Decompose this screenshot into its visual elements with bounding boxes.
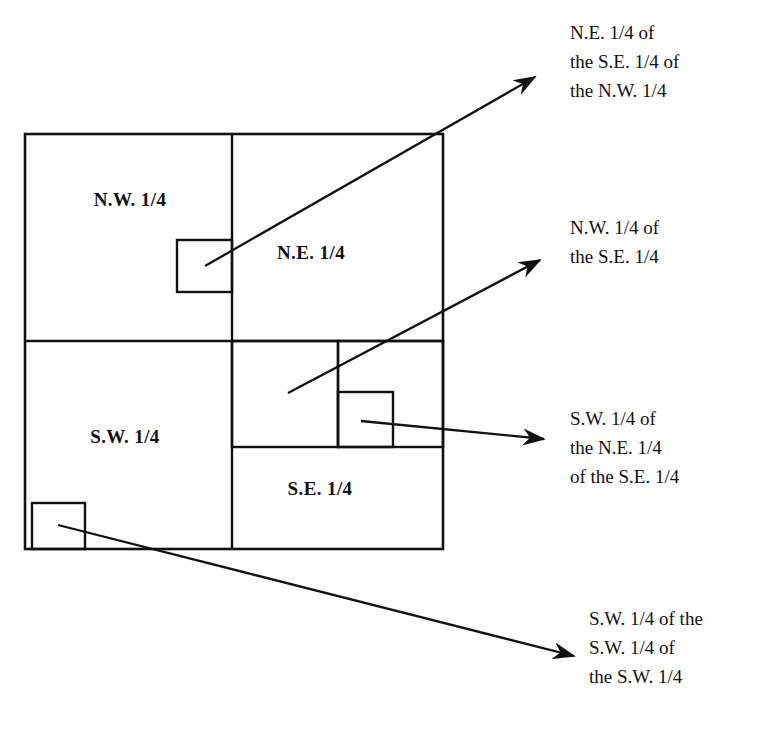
callout-line: the N.E. 1/4 [570, 433, 679, 462]
arrow-to-sw-ne-se [361, 421, 544, 439]
callout-line: S.W. 1/4 of the [589, 604, 703, 633]
quadrant-label-ne: N.E. 1/4 [277, 242, 345, 264]
callout-ne-se-nw: N.E. 1/4 of the S.E. 1/4 of the N.W. 1/4 [570, 18, 679, 105]
callout-sw-ne-se: S.W. 1/4 of the N.E. 1/4 of the S.E. 1/4 [570, 404, 679, 491]
callout-line: S.W. 1/4 of [589, 633, 703, 662]
sub-box-ne-1-4-of-se-1-4-of-nw-1-4 [177, 240, 232, 292]
sub-box-ne-1-4-of-se-1-4 [338, 341, 443, 447]
quadrant-label-sw: S.W. 1/4 [90, 426, 160, 448]
callout-arrows [58, 77, 574, 656]
callout-line: the S.W. 1/4 [589, 662, 703, 691]
callout-line: N.W. 1/4 of [570, 213, 659, 242]
callout-line: the N.W. 1/4 [570, 76, 679, 105]
quadrant-label-se: S.E. 1/4 [288, 478, 353, 500]
arrow-to-sw-sw-sw [58, 525, 574, 656]
arrow-to-ne-se-nw [205, 77, 535, 266]
sub-box-nw-1-4-of-se-1-4 [232, 341, 338, 447]
callout-line: the S.E. 1/4 [570, 242, 659, 271]
sub-box-sw-1-4-of-ne-1-4-of-se-1-4 [338, 392, 393, 447]
callout-line: the S.E. 1/4 of [570, 47, 679, 76]
arrow-to-nw-se [288, 260, 540, 393]
callout-sw-sw-sw: S.W. 1/4 of the S.W. 1/4 of the S.W. 1/4 [589, 604, 703, 691]
quadrant-label-nw: N.W. 1/4 [94, 189, 167, 211]
callout-nw-se: N.W. 1/4 of the S.E. 1/4 [570, 213, 659, 271]
diagram-page: N.W. 1/4 N.E. 1/4 S.W. 1/4 S.E. 1/4 N.E.… [0, 0, 779, 736]
callout-line: of the S.E. 1/4 [570, 462, 679, 491]
callout-line: S.W. 1/4 of [570, 404, 679, 433]
callout-line: N.E. 1/4 of [570, 18, 679, 47]
